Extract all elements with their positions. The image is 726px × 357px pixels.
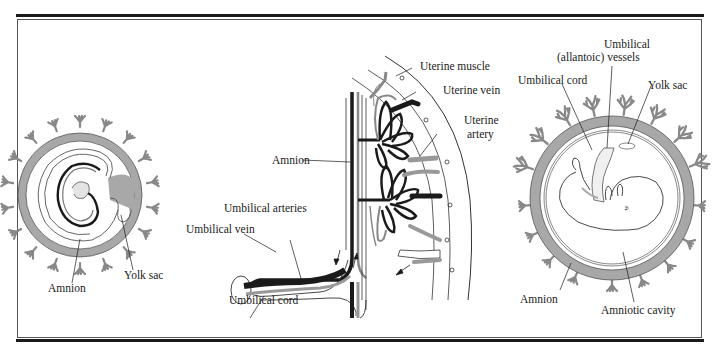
label-amniotic-cavity: Amniotic cavity [601, 304, 676, 317]
label-umbilical-vessels-2: (allantoic) vessels [557, 51, 640, 64]
label-yolk-sac-early: Yolk sac [124, 269, 163, 281]
villous-tree-lower [358, 166, 418, 246]
label-umbilical-arteries: Umbilical arteries [224, 202, 307, 214]
label-amnion-detail: Amnion [272, 154, 310, 166]
label-uterine-muscle: Uterine muscle [420, 60, 490, 72]
label-umbilical-vessels-1: Umbilical [604, 38, 650, 50]
label-umbilical-cord-detail: Umbilical cord [229, 294, 299, 306]
label-uterine-artery-1: Uterine [464, 114, 498, 126]
placenta-diagram: Amnion Yolk sac [0, 0, 726, 357]
label-umbilical-vein: Umbilical vein [186, 223, 255, 235]
later-fetus-panel: ⊅ Umbilical (allantoic) vessels Umbilica… [512, 38, 710, 317]
uterine-vein-vessel [392, 102, 418, 110]
label-amnion-fetal: Amnion [520, 293, 558, 305]
label-uterine-artery-2: artery [467, 128, 494, 141]
early-embryo-panel: Amnion Yolk sac [1, 116, 163, 294]
label-yolk-sac-fetal: Yolk sac [648, 79, 687, 91]
label-amnion-early: Amnion [48, 282, 86, 294]
svg-text:⊅: ⊅ [624, 205, 629, 211]
uterine-artery-vessel [410, 158, 436, 160]
placenta-detail-panel: Uterine muscle Uterine vein Uterine arte… [186, 56, 500, 318]
label-umbilical-cord-fetal: Umbilical cord [518, 74, 588, 86]
figure-frame: Amnion Yolk sac [0, 0, 726, 357]
label-uterine-vein: Uterine vein [443, 84, 500, 96]
